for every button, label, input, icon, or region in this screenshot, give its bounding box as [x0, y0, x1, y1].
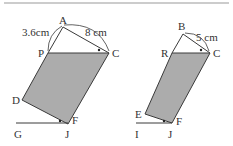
label-C-right: C [213, 47, 220, 59]
right-angle-mark-bottom [163, 120, 165, 122]
label-A: A [59, 14, 67, 26]
left-parallelogram [22, 53, 109, 124]
measure-ap: 3.6cm [22, 26, 50, 38]
measure-ac: 8 cm [85, 26, 107, 38]
left-angle-mark [98, 49, 100, 51]
label-B: B [178, 20, 185, 32]
label-D: D [12, 94, 20, 106]
measure-bc: 5 cm [196, 31, 218, 43]
right-angle-mark [200, 49, 202, 51]
right-figure: B R C E F I J 5 cm [135, 20, 220, 140]
label-R: R [161, 47, 169, 59]
left-figure: A P C D F G J 3.6cm 8 cm [12, 14, 119, 140]
label-G: G [14, 128, 22, 140]
label-I: I [135, 128, 139, 140]
left-arc-ap [48, 26, 62, 51]
geometry-diagram: A P C D F G J 3.6cm 8 cm B R C E F I J 5… [0, 0, 233, 146]
left-angle-mark-bottom [59, 120, 61, 122]
label-J-left: J [65, 128, 70, 140]
label-F-left: F [72, 114, 78, 126]
label-P: P [38, 47, 44, 59]
label-E: E [135, 108, 142, 120]
right-parallelogram [145, 53, 210, 123]
label-F-right: F [176, 115, 182, 127]
label-J-right: J [168, 128, 173, 140]
label-C-left: C [112, 47, 119, 59]
